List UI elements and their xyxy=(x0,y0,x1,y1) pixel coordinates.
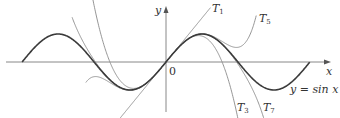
label-t1-sub: 1 xyxy=(219,8,223,16)
label-t7: T7 xyxy=(263,102,275,115)
taylor-diagram: y x 0 T1 T5 T3 T7 y = sin x xyxy=(0,0,340,118)
label-t3: T3 xyxy=(237,102,249,115)
curve-t1 xyxy=(117,8,211,118)
label-t5: T5 xyxy=(259,13,271,26)
y-axis-arrow-icon xyxy=(164,6,169,13)
label-t5-sub: 5 xyxy=(266,18,270,26)
label-t7-sub: 7 xyxy=(270,107,274,115)
plot-area xyxy=(0,0,340,118)
x-axis-arrow-icon xyxy=(324,60,331,65)
x-axis-label: x xyxy=(326,66,332,77)
y-axis-label: y xyxy=(155,5,161,16)
curve-t3 xyxy=(93,0,239,118)
label-sin: y = sin x xyxy=(290,84,338,95)
label-t1: T1 xyxy=(212,3,224,16)
label-t3-sub: 3 xyxy=(244,107,248,115)
origin-label: 0 xyxy=(169,66,176,77)
